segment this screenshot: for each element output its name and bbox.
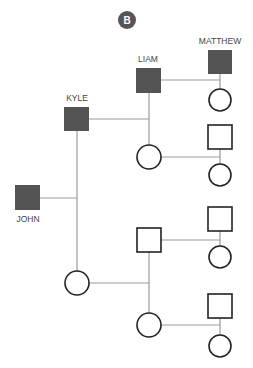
john-square xyxy=(15,185,40,210)
female-node xyxy=(65,271,89,295)
matthew-square xyxy=(208,50,232,74)
kyle-label: KYLE xyxy=(66,93,88,103)
pedigree-diagram: B MATTHEW LIAM KYLE JOHN xyxy=(0,0,253,368)
female-node xyxy=(137,145,161,169)
badge-b: B xyxy=(118,11,136,29)
female-node xyxy=(209,164,231,186)
liam-square xyxy=(136,68,161,93)
male-node xyxy=(208,294,232,318)
matthew-label: MATTHEW xyxy=(199,36,241,46)
john-label: JOHN xyxy=(16,214,39,224)
female-node xyxy=(209,335,231,357)
liam-label: LIAM xyxy=(138,54,158,64)
female-node xyxy=(137,313,161,337)
female-node xyxy=(209,246,231,268)
kyle-square xyxy=(64,107,89,131)
named-males xyxy=(15,50,232,210)
male-node xyxy=(137,228,161,252)
badge-label: B xyxy=(123,15,130,26)
male-node xyxy=(208,125,232,149)
male-node xyxy=(208,207,232,231)
female-node xyxy=(209,89,231,111)
